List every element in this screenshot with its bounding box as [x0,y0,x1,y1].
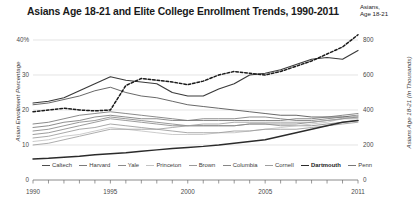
legend-item-brown[interactable]: Brown [189,162,216,168]
legend-item-penn[interactable]: Penn [348,162,372,168]
legend-label: Yale [128,162,139,168]
y-axis-right-tick: 200 [363,141,374,148]
y-axis-right-tick: 600 [363,71,374,78]
legend-swatch-penn [348,165,356,166]
legend-swatch-yale [118,165,126,166]
legend-label: Columbia [233,162,258,168]
legend-label: Harvard [89,162,110,168]
population-line [33,35,358,112]
legend-item-yale[interactable]: Yale [118,162,139,168]
plot-area: 40%3020100800600400200019901995200020052… [0,0,413,210]
series-line-yale [33,119,358,135]
y-axis-left-tick: 30 [22,71,30,78]
y-axis-left-tick: 0 [25,176,29,183]
x-axis-tick-label: 1990 [26,188,41,195]
legend-label: Cornell [275,162,294,168]
y-axis-left-tick: 40% [16,36,29,43]
y-axis-right-tick: 800 [363,36,374,43]
legend-swatch-columbia [223,165,231,166]
series-line-caltech [33,87,358,117]
y-axis-left-tick: 20 [22,106,30,113]
legend-swatch-caltech [42,165,50,166]
legend-label: Penn [358,162,372,168]
legend-item-princeton[interactable]: Princeton [146,162,181,168]
x-axis-tick-label: 2005 [258,188,273,195]
legend-item-cornell[interactable]: Cornell [265,162,294,168]
series-line-dartmouth [33,121,358,160]
x-axis-tick-label: 1995 [103,188,118,195]
legend-item-dartmouth[interactable]: Dartmouth [301,162,341,168]
x-axis-tick-label: 2011 [351,188,365,195]
x-axis-tick-label: 2000 [181,188,196,195]
legend-swatch-princeton [146,165,154,166]
legend-swatch-brown [189,165,197,166]
y-axis-right-tick: 400 [363,106,374,113]
legend-swatch-dartmouth [301,165,309,166]
legend-swatch-harvard [79,165,87,166]
y-axis-right-tick: 0 [363,176,367,183]
chart-container: Asians Age 18-21 and Elite College Enrol… [0,0,413,210]
legend-label: Dartmouth [311,162,341,168]
y-axis-left-tick: 10 [22,141,30,148]
legend-label: Caltech [52,162,72,168]
chart-legend: CaltechHarvardYalePrincetonBrownColumbia… [42,159,372,171]
series-line-princeton [33,115,358,141]
legend-item-caltech[interactable]: Caltech [42,162,72,168]
legend-label: Princeton [156,162,181,168]
legend-item-columbia[interactable]: Columbia [223,162,258,168]
legend-item-harvard[interactable]: Harvard [79,162,110,168]
legend-label: Brown [199,162,216,168]
legend-swatch-cornell [265,165,273,166]
